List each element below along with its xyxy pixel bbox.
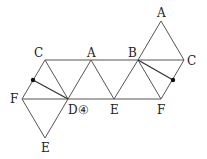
point-left <box>31 78 35 82</box>
net-lines <box>0 0 207 159</box>
label-e-mid: E <box>110 104 119 116</box>
label-c-left: C <box>34 47 43 59</box>
octahedron-net-diagram: C A B A C F D④ E F E <box>0 0 207 159</box>
label-b: B <box>128 47 137 59</box>
label-f-right: F <box>157 104 165 116</box>
point-right <box>171 78 175 82</box>
label-a-top: A <box>157 7 166 19</box>
label-a-mid: A <box>87 47 96 59</box>
label-d: D④ <box>68 104 89 116</box>
label-e-bottom: E <box>41 142 50 154</box>
label-f-left: F <box>10 93 18 105</box>
label-c-right: C <box>187 55 196 67</box>
